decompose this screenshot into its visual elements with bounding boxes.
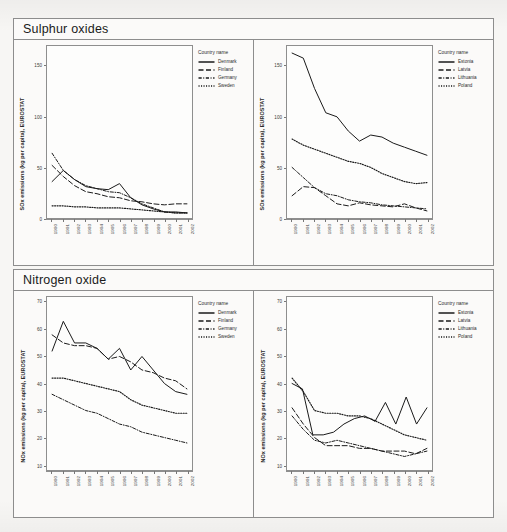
series-line-germany <box>52 153 187 213</box>
legend-line-swatch <box>438 310 455 316</box>
legend-item-sweden: Sweden <box>198 333 251 340</box>
y-tick-label: 30 <box>37 408 42 413</box>
x-tick-mark <box>108 471 109 474</box>
legend-title: Country name <box>438 301 491 306</box>
legend-item-latvia: Latvia <box>438 66 491 73</box>
legend-line-swatch <box>198 334 215 340</box>
x-tick-mark <box>188 471 189 474</box>
y-tick-label: 50 <box>277 165 282 170</box>
legend-line-swatch <box>198 318 215 324</box>
y-tick-label: 50 <box>37 165 42 170</box>
legend-item-lithuania: Lithuania <box>438 325 491 332</box>
x-tick-mark <box>382 219 383 222</box>
legend-label: Estonia <box>458 310 473 315</box>
x-tick-mark <box>360 471 361 474</box>
legend-item-sweden: Sweden <box>198 82 251 89</box>
x-tick-label: 1994 <box>339 224 344 234</box>
x-tick-mark <box>291 219 292 222</box>
panel-nitrogen-oxide: Nitrogen oxide NOx emissions (kg per cap… <box>13 269 494 518</box>
x-tick-mark <box>394 471 395 474</box>
x-tick-mark <box>382 471 383 474</box>
x-tick-mark <box>131 219 132 222</box>
legend-label: Denmark <box>218 310 237 315</box>
legend-line-swatch <box>198 310 215 316</box>
legend-title: Country name <box>438 50 491 55</box>
plot-area-sox-baltic <box>286 45 433 219</box>
chart-nox-nordic: NOx emissions (kg per capita), EUROSTAT … <box>14 291 195 517</box>
x-tick-mark <box>416 471 417 474</box>
x-tick-mark <box>348 219 349 222</box>
x-tick-label: 2000 <box>407 476 412 486</box>
y-tick-label: 40 <box>37 381 42 386</box>
legend-label: Germany <box>218 326 237 331</box>
x-tick-label: 1990 <box>53 224 58 234</box>
x-tick-mark <box>176 471 177 474</box>
x-tick-mark <box>165 471 166 474</box>
x-tick-mark <box>303 219 304 222</box>
legend-item-poland: Poland <box>438 333 491 340</box>
x-tick-label: 2002 <box>190 224 195 234</box>
legend-label: Germany <box>218 75 237 80</box>
legend-line-swatch <box>438 334 455 340</box>
x-tick-label: 1993 <box>87 224 92 234</box>
x-tick-mark <box>314 219 315 222</box>
plot-column-sox-nordic: 1990199119921993199419951996199719981999… <box>46 45 193 263</box>
x-tick-label: 1991 <box>65 476 70 486</box>
chart-nox-baltic: NOx emissions (kg per capita), EUROSTAT … <box>254 291 435 517</box>
y-tick-label: 100 <box>274 114 282 119</box>
x-tick-mark <box>142 219 143 222</box>
legend-item-latvia: Latvia <box>438 317 491 324</box>
x-tick-mark <box>85 471 86 474</box>
x-tick-label: 1997 <box>373 476 378 486</box>
y-axis-nox-nordic: 10203040506070 <box>29 296 46 515</box>
series-line-poland <box>292 139 427 184</box>
legend-line-swatch <box>198 59 215 65</box>
x-tick-label: 1992 <box>76 476 81 486</box>
x-tick-label: 1995 <box>350 476 355 486</box>
x-tick-label: 2000 <box>167 224 172 234</box>
y-tick-label: 150 <box>34 63 42 68</box>
x-tick-label: 2000 <box>167 476 172 486</box>
legend-item-germany: Germany <box>198 74 251 81</box>
legend-label: Sweden <box>218 83 235 88</box>
x-tick-label: 1991 <box>65 224 70 234</box>
y-tick-label: 0 <box>39 217 42 222</box>
legend-item-denmark: Denmark <box>198 309 251 316</box>
x-tick-mark <box>97 219 98 222</box>
y-tick-label: 50 <box>37 354 42 359</box>
x-tick-mark <box>337 219 338 222</box>
x-tick-label: 1990 <box>293 224 298 234</box>
x-tick-label: 2001 <box>178 476 183 486</box>
legend-label: Estonia <box>458 59 473 64</box>
x-tick-mark <box>176 219 177 222</box>
x-tick-label: 1994 <box>99 476 104 486</box>
y-tick-label: 10 <box>277 463 282 468</box>
x-tick-label: 2001 <box>178 224 183 234</box>
legend-title: Country name <box>198 301 251 306</box>
y-tick-label: 60 <box>37 326 42 331</box>
x-tick-mark <box>120 219 121 222</box>
x-tick-mark <box>120 471 121 474</box>
x-tick-mark <box>63 219 64 222</box>
legend-label: Lithuania <box>458 75 477 80</box>
y-tick-label: 20 <box>37 436 42 441</box>
legend-line-swatch <box>198 75 215 81</box>
x-tick-mark <box>63 471 64 474</box>
y-tick-label: 30 <box>277 408 282 413</box>
series-line-germany <box>52 394 187 443</box>
x-tick-label: 1995 <box>110 476 115 486</box>
x-tick-label: 1993 <box>327 476 332 486</box>
y-axis-nox-baltic: 10203040506070 <box>269 296 286 515</box>
legend-sox-baltic: Country name EstoniaLatviaLithuaniaPolan… <box>435 40 493 265</box>
series-line-estonia <box>292 384 427 435</box>
x-tick-mark <box>303 471 304 474</box>
plot-column-nox-nordic: 1990199119921993199419951996199719981999… <box>46 296 193 515</box>
x-tick-label: 1999 <box>396 476 401 486</box>
y-tick-label: 0 <box>279 217 282 222</box>
subpanel-nox-baltic: NOx emissions (kg per capita), EUROSTAT … <box>253 291 493 517</box>
x-tick-mark <box>325 219 326 222</box>
legend-line-swatch <box>198 326 215 332</box>
x-tick-label: 1998 <box>144 224 149 234</box>
legend-item-estonia: Estonia <box>438 58 491 65</box>
x-tick-label: 1990 <box>293 476 298 486</box>
